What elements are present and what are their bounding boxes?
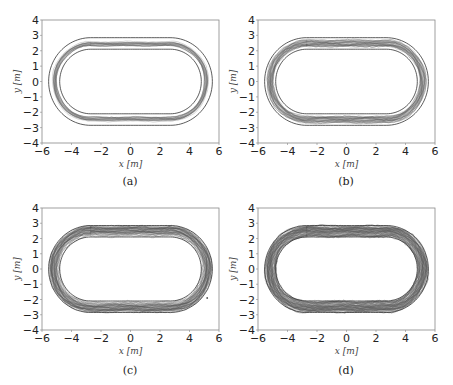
y-tick-label: −3 [23,122,39,135]
y-tick-label: −1 [23,91,39,104]
y-tick-label: 3 [248,29,255,42]
x-tick-label: −4 [279,145,295,158]
x-tick-label: 2 [157,145,164,158]
track-inner-boundary [276,49,418,114]
x-tick-label: 4 [402,145,409,158]
y-tick-label: 1 [32,248,39,261]
subplot-d: −6−4−20246−4−3−2−101234x [m]y [m] [226,190,453,385]
axes-frame [42,20,219,143]
x-axis-label: x [m] [119,159,143,169]
x-tick-label: −2 [309,145,325,158]
y-tick-label: −4 [23,137,39,150]
x-tick-label: 6 [432,332,439,345]
x-tick-label: −2 [309,332,325,345]
subplot-b: −6−4−20246−4−3−2−101234x [m]y [m] [226,0,453,190]
x-tick-label: 6 [432,145,439,158]
trajectories [264,225,429,314]
y-tick-label: 4 [248,202,255,215]
y-axis-label: y [m] [228,69,238,94]
x-tick-label: 0 [343,332,350,345]
track-inner-boundary [60,49,202,114]
y-tick-label: 4 [32,202,39,215]
x-tick-label: 6 [216,332,223,345]
outlier-point [206,297,208,299]
y-axis-label: y [m] [12,257,22,282]
x-tick-label: 4 [186,332,193,345]
subplot-c: −6−4−20246−4−3−2−101234x [m]y [m] [0,190,226,385]
y-tick-label: −2 [239,294,255,307]
plot-svg: −6−4−20246−4−3−2−101234x [m]y [m] [0,0,226,190]
caption-a: (a) [115,175,145,188]
plot-svg: −6−4−20246−4−3−2−101234x [m]y [m] [0,190,226,385]
y-tick-label: 1 [248,60,255,73]
x-tick-label: 0 [343,145,350,158]
track-inner-boundary [276,237,418,301]
y-tick-label: 2 [32,45,39,58]
y-tick-label: 0 [248,76,255,89]
x-tick-label: 4 [186,145,193,158]
y-tick-label: 3 [32,29,39,42]
track-inner-boundary [60,237,202,301]
x-tick-label: −2 [93,332,109,345]
y-tick-label: −4 [239,137,255,150]
y-tick-label: 3 [248,217,255,230]
y-tick-label: 0 [32,263,39,276]
y-axis-label: y [m] [228,257,238,282]
y-tick-label: −2 [23,294,39,307]
y-tick-label: −3 [239,122,255,135]
y-tick-label: −3 [23,309,39,322]
x-tick-label: 0 [127,145,134,158]
trajectories [49,225,212,313]
x-tick-label: 0 [127,332,134,345]
y-tick-label: 2 [248,233,255,246]
y-tick-label: 2 [32,233,39,246]
caption-c: (c) [115,364,145,377]
x-tick-label: 4 [402,332,409,345]
y-tick-label: 2 [248,45,255,58]
caption-d: (d) [331,364,361,377]
x-tick-label: 2 [373,332,380,345]
y-tick-label: 1 [32,60,39,73]
y-tick-label: −1 [239,91,255,104]
x-axis-label: x [m] [119,346,143,356]
plot-svg: −6−4−20246−4−3−2−101234x [m]y [m] [226,0,453,190]
x-tick-label: 6 [216,145,223,158]
x-tick-label: −2 [93,145,109,158]
y-tick-label: −2 [23,106,39,119]
y-tick-label: −3 [239,309,255,322]
y-tick-label: 4 [248,14,255,27]
caption-b: (b) [331,175,361,188]
y-tick-label: 3 [32,217,39,230]
y-tick-label: 0 [248,263,255,276]
x-tick-label: −4 [63,145,79,158]
x-axis-label: x [m] [335,346,359,356]
trajectories [267,39,427,124]
subplot-a: −6−4−20246−4−3−2−101234x [m]y [m] [0,0,226,190]
axes-frame [258,20,435,143]
x-tick-label: 2 [373,145,380,158]
y-tick-label: 0 [32,76,39,89]
y-tick-label: −4 [239,324,255,337]
y-tick-label: 4 [32,14,39,27]
y-tick-label: 1 [248,248,255,261]
x-tick-label: −4 [279,332,295,345]
y-tick-label: −1 [239,278,255,291]
y-tick-label: −4 [23,324,39,337]
y-axis-label: y [m] [12,69,22,94]
plot-svg: −6−4−20246−4−3−2−101234x [m]y [m] [226,190,453,385]
x-tick-label: 2 [157,332,164,345]
y-tick-label: −2 [239,106,255,119]
y-tick-label: −1 [23,278,39,291]
x-axis-label: x [m] [335,159,359,169]
x-tick-label: −4 [63,332,79,345]
